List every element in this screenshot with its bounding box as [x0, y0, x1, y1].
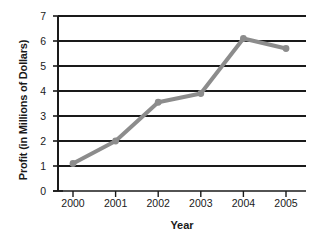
data-series-line — [73, 39, 286, 164]
data-point — [155, 99, 162, 106]
gridlines — [58, 16, 306, 166]
y-tick-label: 6 — [30, 36, 46, 46]
data-point — [112, 138, 119, 145]
y-tick-label: 4 — [30, 86, 46, 96]
data-point — [240, 35, 247, 42]
x-tick-label: 2001 — [96, 197, 136, 209]
y-axis-title: Profit (in Millions of Dollars) — [17, 15, 29, 205]
line-chart: 01234567 200020012002200320042005 Profit… — [0, 0, 321, 241]
x-tick-label: 2004 — [223, 197, 263, 209]
y-tick-label: 1 — [30, 161, 46, 171]
data-point — [283, 45, 290, 52]
x-tick-label: 2002 — [138, 197, 178, 209]
data-point — [197, 90, 204, 97]
y-tick-label: 7 — [30, 11, 46, 21]
y-tick-label: 2 — [30, 136, 46, 146]
y-tick-label: 5 — [30, 61, 46, 71]
x-axis-tick-labels: 200020012002200320042005 — [0, 197, 321, 213]
x-tick-label: 2005 — [266, 197, 306, 209]
data-point — [70, 160, 77, 167]
x-tick-label: 2003 — [181, 197, 221, 209]
y-tick-label: 3 — [30, 111, 46, 121]
y-tick-label: 0 — [30, 186, 46, 196]
x-tick-label: 2000 — [53, 197, 93, 209]
x-axis-title: Year — [58, 219, 306, 231]
